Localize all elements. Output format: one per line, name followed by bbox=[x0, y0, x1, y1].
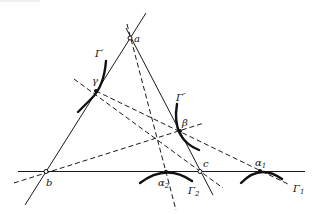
point-gamma bbox=[94, 89, 98, 93]
arc-gamma-1 bbox=[241, 172, 282, 183]
vertex-a bbox=[128, 36, 132, 40]
label-gamma-prime: Γ′ bbox=[94, 48, 104, 59]
label-gamma: γ bbox=[92, 75, 98, 86]
point-beta bbox=[178, 129, 182, 133]
label-b: b bbox=[46, 177, 52, 188]
label-c: c bbox=[203, 158, 209, 169]
geometry-figure: a b c γ β α1 α2 Γ′ Γ″ Γ1 Γ2 bbox=[0, 0, 318, 215]
label-a: a bbox=[134, 33, 140, 44]
arc-gamma-prime bbox=[78, 61, 106, 112]
line-ab bbox=[25, 13, 146, 205]
label-gamma-2: Γ2 bbox=[187, 185, 200, 198]
vertex-b bbox=[44, 170, 48, 174]
label-beta: β bbox=[181, 117, 188, 128]
label-gamma-double-prime: Γ″ bbox=[175, 92, 186, 103]
vertex-c bbox=[198, 170, 202, 174]
label-gamma-1: Γ1 bbox=[292, 183, 304, 196]
point-alpha2 bbox=[164, 170, 168, 174]
label-alpha1: α1 bbox=[255, 157, 266, 170]
